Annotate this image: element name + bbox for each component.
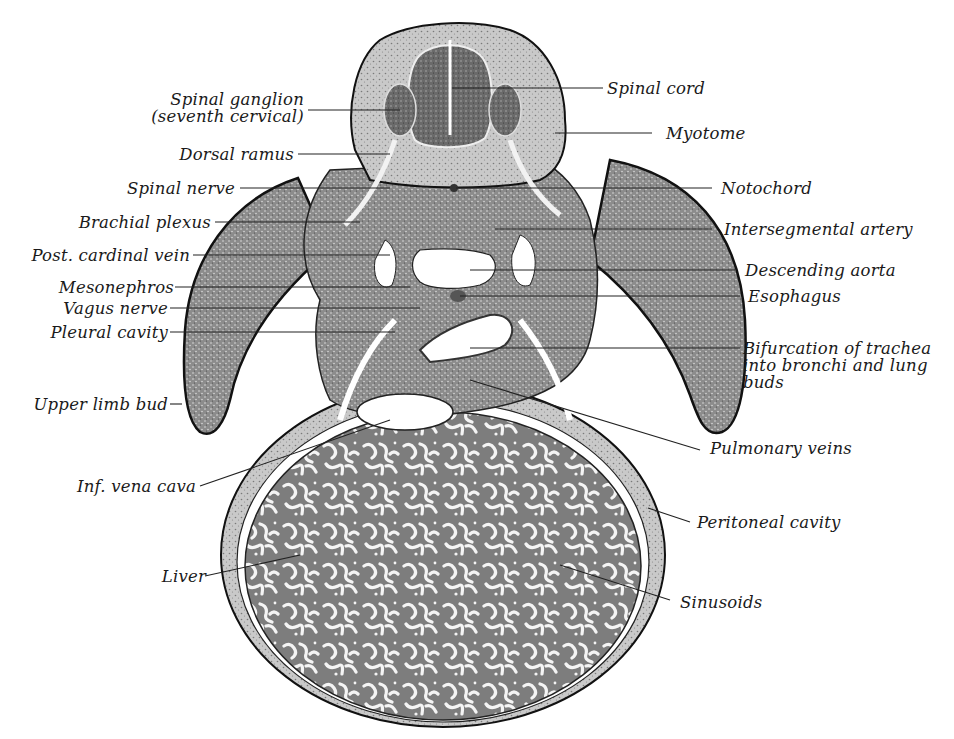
label-mesonephros: Mesonephros — [59, 279, 174, 296]
label-inf-vena-cava: Inf. vena cava — [77, 478, 196, 495]
embryo-section-figure: Spinal ganglion (seventh cervical) Dorsa… — [0, 0, 954, 739]
label-post-cardinal-vein: Post. cardinal vein — [31, 247, 190, 264]
label-descending-aorta: Descending aorta — [745, 262, 896, 279]
descending-aorta-lumen — [413, 249, 496, 289]
inf-vena-cava-lumen — [357, 394, 453, 430]
label-spinal-ganglion: Spinal ganglion (seventh cervical) — [151, 91, 304, 125]
label-spinal-nerve: Spinal nerve — [127, 180, 235, 197]
label-sinusoids: Sinusoids — [680, 594, 762, 611]
label-dorsal-ramus: Dorsal ramus — [179, 146, 294, 163]
label-notochord: Notochord — [721, 180, 812, 197]
liver-body — [245, 412, 641, 720]
right-spinal-ganglion — [489, 84, 521, 136]
label-brachial-plexus: Brachial plexus — [79, 214, 211, 231]
label-peritoneal-cavity: Peritoneal cavity — [697, 514, 841, 531]
label-vagus-nerve: Vagus nerve — [63, 300, 168, 317]
label-intersegmental-artery: Intersegmental artery — [724, 221, 913, 238]
label-esophagus: Esophagus — [748, 288, 841, 305]
label-pulmonary-veins: Pulmonary veins — [710, 440, 852, 457]
label-pleural-cavity: Pleural cavity — [51, 324, 168, 341]
label-liver: Liver — [162, 568, 206, 585]
label-bifurcation-trachea: Bifurcation of trachea into bronchi and … — [743, 340, 931, 391]
label-upper-limb-bud: Upper limb bud — [34, 396, 169, 413]
label-spinal-cord: Spinal cord — [607, 80, 705, 97]
label-myotome: Myotome — [666, 125, 746, 142]
